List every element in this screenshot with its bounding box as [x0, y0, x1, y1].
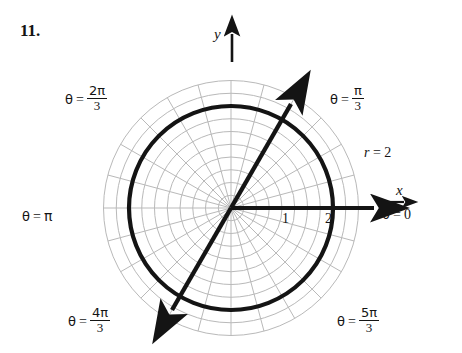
equals-symbol: = — [348, 314, 356, 329]
angle-value: 0 — [404, 207, 411, 222]
fraction-denominator: 3 — [90, 321, 110, 335]
curve-label-r-equals-2: r = 2 — [364, 146, 391, 160]
x-axis-label: x — [396, 183, 403, 198]
theta-symbol: θ — [65, 92, 73, 107]
fraction: 4π3 — [90, 306, 110, 334]
theta-symbol: θ — [382, 207, 390, 222]
theta-symbol: θ — [330, 92, 338, 107]
polar-plot-svg — [0, 0, 462, 353]
angle-value: π — [44, 208, 52, 224]
theta-symbol: θ — [68, 314, 76, 329]
radial-tick-2: 2 — [325, 212, 332, 226]
radial-tick-1: 1 — [282, 212, 289, 226]
curve-label-value: 2 — [384, 145, 391, 160]
fraction-numerator: 4π — [90, 306, 110, 321]
fraction-denominator: 3 — [352, 99, 364, 113]
fraction: π3 — [352, 84, 364, 112]
theta-symbol: θ — [337, 314, 345, 329]
fraction-numerator: 2π — [87, 84, 107, 99]
angle-label-theta-2pi-over-3: θ=2π3 — [65, 84, 107, 112]
equals-symbol: = — [341, 92, 349, 107]
angle-label-theta-pi: θ=π — [22, 209, 52, 224]
fraction-denominator: 3 — [359, 321, 379, 335]
y-axis-label: y — [214, 27, 221, 42]
angle-label-theta-pi-over-3: θ=π3 — [330, 84, 364, 112]
equals-symbol: = — [393, 207, 401, 222]
equals-symbol: = — [33, 209, 41, 224]
problem-number: 11. — [20, 22, 40, 39]
fraction: 2π3 — [87, 84, 107, 112]
fraction-numerator: 5π — [359, 306, 379, 321]
fraction-numerator: π — [352, 84, 364, 99]
equals-symbol: = — [79, 314, 87, 329]
angle-label-theta-5pi-over-3: θ=5π3 — [337, 306, 379, 334]
fraction: 5π3 — [359, 306, 379, 334]
angle-label-theta-4pi-over-3: θ=4π3 — [68, 306, 110, 334]
polar-figure: 11. y x 1 2 r = 2 θ=0 θ=π3 θ=2π3 θ=π θ=4… — [0, 0, 462, 353]
curve-label-variable: r — [364, 145, 369, 160]
equals-symbol: = — [76, 92, 84, 107]
curve-label-equals: = — [373, 145, 381, 160]
angle-label-theta-0: θ=0 — [382, 208, 411, 222]
fraction-denominator: 3 — [87, 99, 107, 113]
theta-symbol: θ — [22, 209, 30, 224]
